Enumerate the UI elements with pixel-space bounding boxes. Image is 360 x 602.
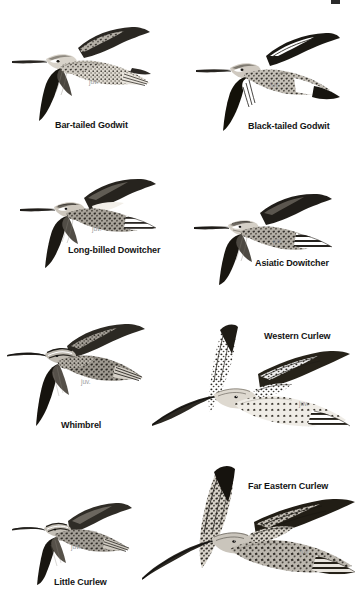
bird-figure-little-curlew: Little Curlew juv.	[10, 497, 132, 585]
species-label-whimbrel: Whimbrel	[61, 420, 101, 430]
bird-figure-bar-tailed-godwit: Bar-tailed Godwit juv.	[4, 18, 152, 123]
species-label-western-curlew: Western Curlew	[264, 331, 330, 341]
species-label-asiatic-dowitcher: Asiatic Dowitcher	[255, 258, 329, 268]
asiatic-dowitcher-illustration	[192, 185, 334, 285]
bird-figure-long-billed-dowitcher: Long-billed Dowitcher juv.	[18, 172, 158, 268]
bird-figure-black-tailed-godwit: Black-tailed Godwit juv.	[190, 22, 340, 132]
bird-figure-asiatic-dowitcher: Asiatic Dowitcher juv.	[192, 185, 334, 285]
juv-annotation-bar-tailed-godwit: juv.	[89, 78, 99, 85]
juv-annotation-long-billed-dowitcher: juv.	[92, 225, 102, 232]
bird-figure-western-curlew: Western Curlew juv.	[150, 318, 350, 440]
juv-annotation-black-tailed-godwit: juv.	[270, 81, 280, 88]
little-curlew-illustration	[10, 497, 132, 585]
juv-annotation-far-eastern-curlew: juv.	[300, 548, 310, 555]
juv-annotation-western-curlew: juv.	[299, 400, 309, 407]
bird-figure-whimbrel: Whimbrel juv.	[5, 318, 145, 426]
species-label-black-tailed-godwit: Black-tailed Godwit	[248, 121, 330, 131]
juv-annotation-asiatic-dowitcher: juv.	[273, 237, 283, 244]
whimbrel-illustration	[5, 318, 145, 426]
juv-annotation-whimbrel: juv.	[81, 378, 91, 385]
species-label-long-billed-dowitcher: Long-billed Dowitcher	[68, 245, 160, 255]
black-tailed-godwit-illustration	[190, 22, 340, 132]
species-label-bar-tailed-godwit: Bar-tailed Godwit	[55, 120, 128, 130]
juv-annotation-little-curlew: juv.	[71, 543, 81, 550]
bird-figure-far-eastern-curlew: Far Eastern Curlew juv.	[140, 462, 355, 592]
shorebird-identification-plate: Bar-tailed Godwit juv.	[0, 0, 360, 602]
species-label-little-curlew: Little Curlew	[54, 577, 107, 587]
page-corner-artifact	[331, 0, 340, 4]
bar-tailed-godwit-illustration	[4, 18, 152, 123]
species-label-far-eastern-curlew: Far Eastern Curlew	[248, 481, 328, 491]
